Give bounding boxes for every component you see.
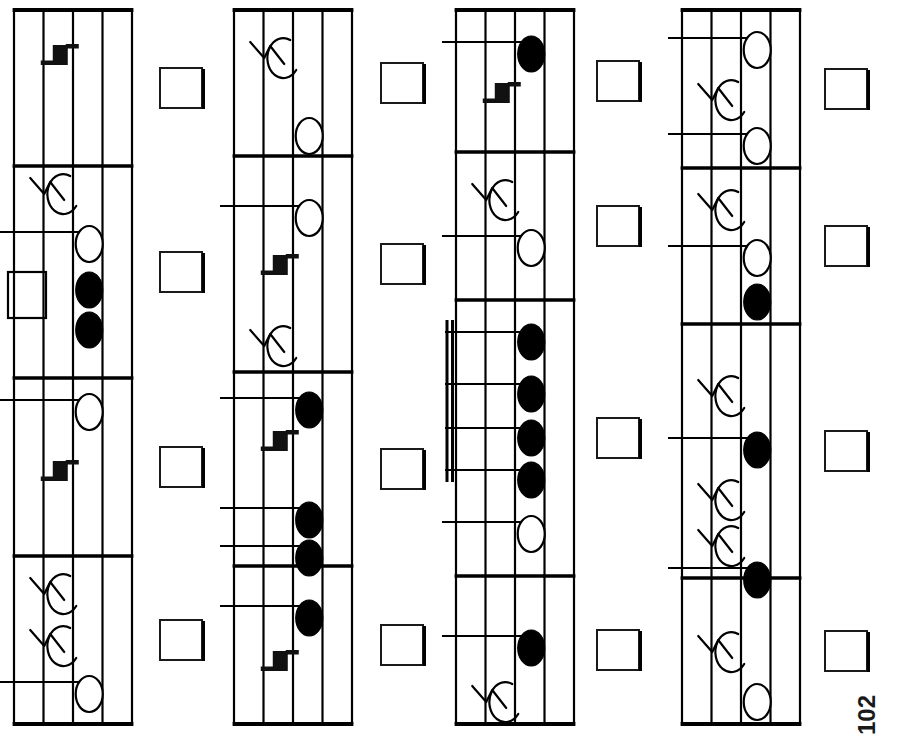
answer-box-outline[interactable] (597, 61, 639, 101)
answer-box-shadow (639, 207, 642, 247)
answer-box[interactable] (825, 226, 870, 267)
answer-box[interactable] (160, 68, 205, 109)
answer-box[interactable] (381, 244, 426, 285)
eighth-rest (30, 574, 76, 614)
half-note-open (0, 226, 103, 262)
eighth-rest (698, 80, 744, 120)
answer-box-outline[interactable] (825, 631, 867, 671)
answer-box[interactable] (597, 418, 642, 459)
answer-box[interactable] (160, 620, 205, 661)
half-note-open (442, 516, 545, 552)
answer-box-outline[interactable] (160, 252, 202, 292)
note-head-open (744, 240, 771, 276)
quarter-note-filled (220, 600, 323, 636)
note-head-filled (76, 312, 103, 348)
answer-box-outline[interactable] (825, 69, 867, 109)
answer-box-shadow (639, 62, 642, 102)
note-head-open (296, 200, 323, 236)
answer-box[interactable] (381, 625, 426, 666)
half-note-open (296, 118, 323, 154)
note-head-filled (296, 392, 323, 428)
answer-box-shadow (423, 245, 426, 285)
answer-box-outline[interactable] (160, 68, 202, 108)
eighth-rest (250, 38, 296, 78)
quarter-note-filled (442, 36, 545, 72)
note-head-filled (744, 284, 771, 320)
note-head-filled (518, 36, 545, 72)
answer-box[interactable] (597, 61, 642, 102)
eighth-rest (698, 632, 744, 672)
note-head-open (744, 684, 771, 720)
answer-box-shadow (867, 432, 870, 472)
answer-box-shadow (867, 227, 870, 267)
half-note-open (668, 32, 771, 68)
worksheet-canvas: 102 (0, 0, 897, 749)
answer-box-outline[interactable] (381, 625, 423, 665)
eighth-rest (698, 526, 744, 566)
answer-box-shadow (423, 64, 426, 104)
answer-box-outline[interactable] (381, 449, 423, 489)
answer-box[interactable] (597, 206, 642, 247)
quarter-note-filled (76, 272, 103, 308)
note-head-filled (76, 272, 103, 308)
half-note-open (0, 676, 103, 712)
eighth-rest (30, 174, 76, 214)
answer-box[interactable] (825, 69, 870, 110)
note-head-open (76, 394, 103, 430)
answer-box-outline[interactable] (160, 620, 202, 660)
answer-box-outline[interactable] (160, 447, 202, 487)
note-head-open (76, 676, 103, 712)
eighth-rest-hook (47, 174, 76, 214)
half-note-open (0, 394, 103, 430)
eighth-rest-hook (715, 80, 744, 120)
eighth-rest-hook (489, 180, 518, 220)
quarter-note-filled (220, 392, 323, 428)
eighth-rest-hook (715, 190, 744, 230)
quarter-note-filled (76, 312, 103, 348)
staff-system-3 (442, 10, 642, 724)
answer-box-shadow (639, 419, 642, 459)
answer-box[interactable] (160, 447, 205, 488)
half-note-open (668, 128, 771, 164)
eighth-rest (472, 180, 518, 220)
answer-box-shadow (202, 621, 205, 661)
answer-box-outline[interactable] (381, 63, 423, 103)
note-head-open (518, 230, 545, 266)
note-head-filled (518, 462, 545, 498)
note-head-filled (744, 432, 771, 468)
note-head-open (744, 128, 771, 164)
eighth-rest-hook (715, 376, 744, 416)
quarter-note-filled (220, 502, 323, 538)
answer-box-outline[interactable] (597, 630, 639, 670)
answer-box-shadow (423, 450, 426, 490)
eighth-rest-hook (267, 38, 296, 78)
answer-box-outline[interactable] (825, 431, 867, 471)
quarter-note-filled (668, 432, 771, 468)
answer-box[interactable] (381, 63, 426, 104)
note-head-filled (518, 630, 545, 666)
eighth-rest-hook (47, 626, 76, 666)
note-head-filled (518, 324, 545, 360)
answer-box-outline[interactable] (597, 418, 639, 458)
answer-box-shadow (202, 69, 205, 109)
answer-box-shadow (202, 253, 205, 293)
answer-box[interactable] (160, 252, 205, 293)
eighth-rest (250, 326, 296, 366)
answer-box-outline[interactable] (381, 244, 423, 284)
eighth-rest (30, 626, 76, 666)
quarter-note-filled (668, 562, 771, 598)
eighth-rest (698, 376, 744, 416)
answer-box[interactable] (825, 431, 870, 472)
eighth-rest-hook (715, 480, 744, 520)
note-head-filled (296, 502, 323, 538)
note-head-filled (744, 562, 771, 598)
eighth-rest-hook (267, 326, 296, 366)
answer-box-outline[interactable] (825, 226, 867, 266)
note-head-open (76, 226, 103, 262)
answer-box[interactable] (597, 630, 642, 671)
eighth-rest-hook (715, 632, 744, 672)
staff-system-1 (0, 10, 205, 724)
answer-box-outline[interactable] (597, 206, 639, 246)
answer-box[interactable] (381, 449, 426, 490)
answer-box[interactable] (825, 631, 870, 672)
